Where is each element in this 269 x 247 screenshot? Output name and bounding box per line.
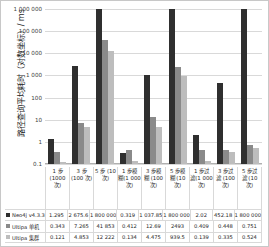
bar[interactable] [181, 76, 187, 164]
y-axis-tick-label: 1 [38, 139, 42, 145]
gridline [45, 164, 262, 165]
x-axis-category-cell: 5 步过滤 (10次) [237, 167, 262, 209]
table-cell-value: 41 853 [93, 221, 117, 231]
bar-group [190, 9, 214, 164]
bar-group [93, 9, 117, 164]
legend-swatch-icon [6, 235, 10, 239]
table-cell-value: 1 800 000 [234, 210, 262, 220]
table-cell-value: 0.335 [213, 233, 237, 242]
legend-label: Neo4j v4.3.3 [12, 212, 45, 218]
bar[interactable] [60, 162, 66, 164]
x-axis-category-label: 1 步(1000次) [50, 168, 66, 188]
bar[interactable] [229, 152, 235, 164]
table-cell-value: 0.412 [117, 221, 141, 231]
table-cell-value: 0.139 [189, 233, 213, 242]
legend-entry[interactable]: Ultipa 集群 [5, 233, 45, 242]
chart-container: 路径查询平均耗时（对数坐标）/ ms 0.11101001 00010 0001… [0, 0, 269, 247]
x-axis-category-label: 1 步模糊(1 000次) [118, 168, 141, 188]
bar[interactable] [84, 127, 90, 164]
x-axis-category-cell: 5 步模糊 (10次) [165, 167, 189, 209]
x-axis-category-cell: 1 步过滤(1 000次) [189, 167, 213, 209]
x-axis-category-labels: 1 步(1000次)3 步(100 次)5 步 (10次)1 步模糊(1 000… [45, 167, 262, 209]
y-axis-title: 路径查询平均耗时（对数坐标）/ ms [14, 0, 26, 148]
bar-group [45, 9, 69, 164]
table-cell-value: 0.343 [45, 221, 69, 231]
bar-group [214, 9, 238, 164]
bar-group [141, 9, 165, 164]
table-row: Neo4j v4.3.31.2952 675.61 800 0000.3191 … [5, 209, 262, 220]
y-axis-tick-label: 10 000 [22, 50, 42, 56]
table-cell-value: 0.751 [237, 221, 262, 231]
table-cell-value: 2493 [165, 221, 189, 231]
y-axis-tick-label: 1 000 000 [14, 6, 42, 12]
table-row: Ultipa 单机0.3437.26541 8530.41212.6924930… [5, 220, 262, 231]
table-cell-value: 0.524 [237, 233, 262, 242]
table-cell-value: 0.319 [116, 210, 138, 220]
x-axis-category-cell: 3 步模糊 (100次) [141, 167, 165, 209]
bar[interactable] [108, 51, 114, 164]
legend-swatch-icon [6, 224, 10, 228]
x-axis-category-label: 3 步(100 次) [71, 168, 92, 182]
bar[interactable] [253, 148, 259, 164]
table-cell-value: 0.121 [45, 233, 69, 242]
table-cell-value: 0.448 [213, 221, 237, 231]
x-axis-category-label: 5 步过滤 (10次) [242, 168, 258, 188]
bar-group [69, 9, 93, 164]
y-axis-tick-label: 100 000 [19, 28, 42, 34]
bar[interactable] [156, 127, 162, 164]
legend-label: Ultipa 集群 [12, 234, 39, 241]
legend-swatch-icon [6, 213, 10, 217]
table-cell-value: 1.295 [45, 210, 67, 220]
y-axis-tick-label: 1 000 [26, 72, 42, 78]
bar[interactable] [205, 161, 211, 164]
table-cell-value: 2 675.6 [67, 210, 89, 220]
x-axis-category-cell: 3 步(100 次) [69, 167, 93, 209]
x-axis-category-cell: 3 步过滤 (100次) [213, 167, 237, 209]
y-axis-tick-label: 10 [35, 117, 42, 123]
table-cell-value: 939.5 [165, 233, 189, 242]
table-cell-value: 7.265 [69, 221, 93, 231]
x-axis-category-cell: 1 步(1000次) [45, 167, 69, 209]
table-cell-value: 1 037.85 [138, 210, 162, 220]
table-cell-value: 1 800 000 [162, 210, 189, 220]
table-row: Ultipa 集群0.1214.85312 2220.1344.475939.5… [5, 232, 262, 243]
data-table: Neo4j v4.3.31.2952 675.61 800 0000.3191 … [5, 209, 262, 243]
x-axis-category-label: 3 步模糊 (100次) [144, 168, 163, 188]
table-cell-value: 12.69 [141, 221, 165, 231]
legend-entry[interactable]: Neo4j v4.3.3 [5, 210, 45, 220]
table-cell-value: 0.134 [117, 233, 141, 242]
x-axis-category-label: 3 步过滤 (100次) [216, 168, 235, 188]
table-cell-value: 1 800 000 [89, 210, 116, 220]
x-axis-category-cell: 5 步 (10次) [93, 167, 117, 209]
y-axis-tick-label: 0.1 [33, 161, 42, 167]
x-axis-category-label: 5 步 (10次) [95, 168, 116, 182]
legend-label: Ultipa 单机 [12, 223, 39, 230]
bar-group [166, 9, 190, 164]
table-cell-value: 452.18 [212, 210, 234, 220]
table-cell-value: 2.02 [190, 210, 212, 220]
table-cell-value: 0.409 [189, 221, 213, 231]
bar[interactable] [132, 161, 138, 164]
x-axis-category-label: 1 步过滤(1 000次) [190, 168, 213, 188]
bars-layer [45, 9, 262, 164]
y-axis-tick-label: 100 [31, 95, 42, 101]
x-axis-category-cell: 1 步模糊(1 000次) [117, 167, 141, 209]
bar-group [238, 9, 262, 164]
table-cell-value: 12 222 [93, 233, 117, 242]
bar[interactable] [241, 9, 247, 164]
plot-area: 0.11101001 00010 000100 0001 000 000 [45, 9, 262, 164]
table-cell-value: 4.853 [69, 233, 93, 242]
table-cell-value: 4.475 [141, 233, 165, 242]
x-axis-category-label: 5 步模糊 (10次) [170, 168, 186, 188]
legend-entry[interactable]: Ultipa 单机 [5, 221, 45, 231]
bar-group [117, 9, 141, 164]
